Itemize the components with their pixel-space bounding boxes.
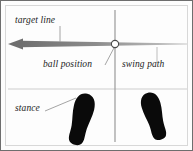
stance-leader	[45, 98, 76, 111]
target-line-body	[21, 41, 187, 47]
right-footprint-icon	[138, 90, 170, 142]
golf-stance-diagram: target line ball position swing path sta…	[0, 0, 193, 151]
label-swing-path: swing path	[122, 60, 164, 70]
left-footprint-icon	[65, 91, 98, 147]
ball-position-leader	[105, 48, 114, 66]
golf-ball-icon	[111, 40, 118, 47]
target-line-arrowhead	[8, 38, 23, 49]
label-target-line: target line	[15, 16, 55, 26]
label-stance: stance	[15, 104, 40, 114]
label-ball-position: ball position	[43, 60, 92, 70]
